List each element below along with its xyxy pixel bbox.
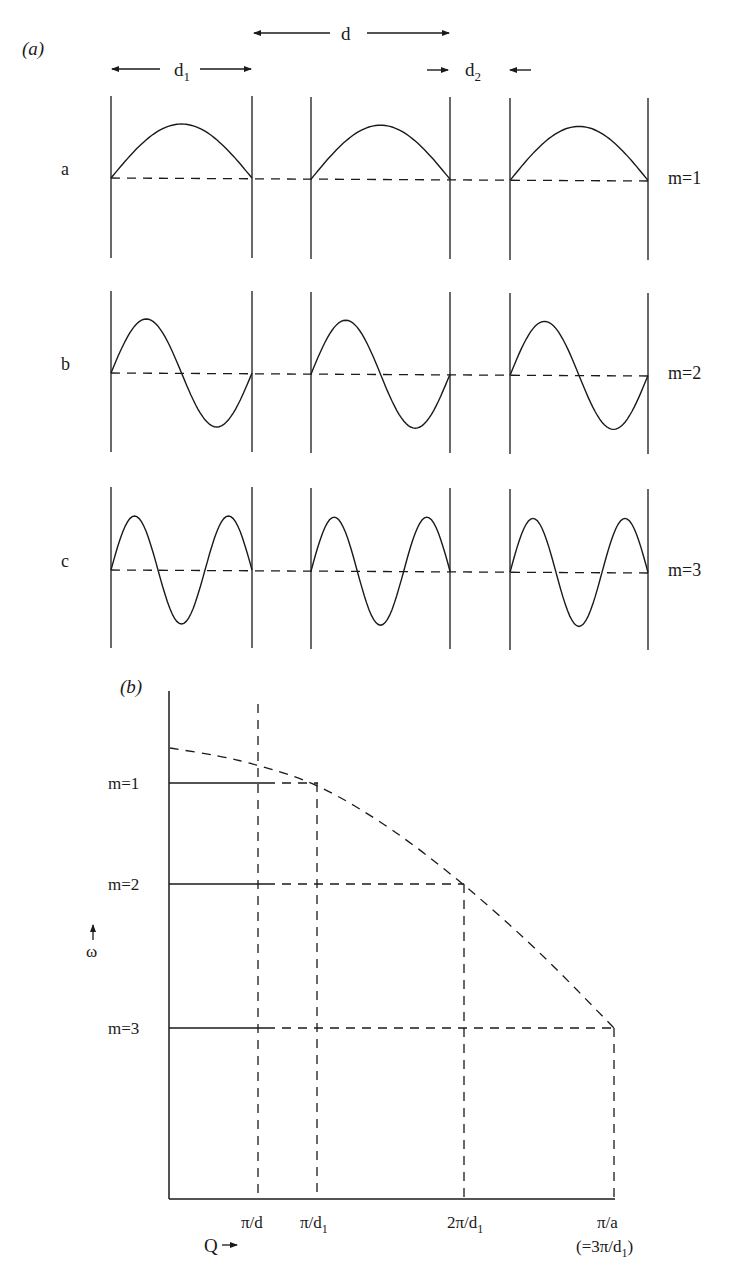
- d-dimension: d: [254, 23, 449, 44]
- d2-label: d2: [465, 59, 481, 84]
- d1-dimension: d1: [112, 59, 251, 84]
- standing-wave: [311, 517, 450, 625]
- d2-dimension: d2: [427, 59, 531, 84]
- svg-text:Q: Q: [204, 1235, 218, 1256]
- row-label: b: [61, 354, 70, 374]
- x-tick-note: (=3π/d1): [576, 1237, 633, 1260]
- panel-b-label: (b): [120, 676, 142, 698]
- standing-wave: [311, 125, 450, 179]
- dispersion-curve: [170, 748, 614, 1028]
- svg-text:ω: ω: [86, 942, 97, 961]
- y-tick-label: m=1: [108, 774, 139, 793]
- mode-row-b: bm=2: [61, 291, 701, 454]
- x-tick-label: π/d1: [300, 1213, 328, 1236]
- mode-label: m=1: [668, 168, 701, 188]
- baseline-dashed: [111, 570, 648, 573]
- panel-a-label: (a): [22, 38, 44, 60]
- x-tick-label: π/a: [597, 1213, 618, 1232]
- standing-wave: [311, 320, 450, 428]
- y-tick-label: m=2: [108, 875, 139, 894]
- y-tick-label: m=3: [108, 1019, 139, 1038]
- mode-label: m=3: [668, 560, 701, 580]
- panel-a-modes: am=1bm=2cm=3: [61, 96, 701, 650]
- panel-b-dispersion: π/dπ/d12π/d1π/a(=3π/d1)m=1m=2m=3: [108, 691, 633, 1260]
- row-label: c: [61, 551, 69, 571]
- mode-row-c: cm=3: [61, 487, 701, 650]
- baseline-dashed: [111, 178, 648, 181]
- omega-axis-label: ω: [86, 925, 97, 961]
- d1-label: d1: [174, 59, 190, 84]
- d-label: d: [341, 23, 351, 44]
- mode-row-a: am=1: [61, 96, 701, 260]
- q-axis-label: Q: [204, 1235, 237, 1256]
- mode-label: m=2: [668, 363, 701, 383]
- figure: (a) d d1 d2 am=1bm=2cm=3 (b) π/dπ/d12π/d…: [0, 0, 737, 1270]
- standing-wave: [111, 124, 252, 178]
- x-tick-label: π/d: [241, 1213, 263, 1232]
- x-tick-label: 2π/d1: [447, 1213, 483, 1236]
- row-label: a: [61, 159, 69, 179]
- standing-wave: [510, 126, 648, 180]
